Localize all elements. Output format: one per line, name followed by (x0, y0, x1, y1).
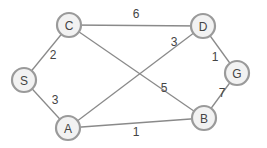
edge-weight-a-d: 3 (171, 35, 178, 49)
node-label: G (232, 67, 241, 81)
node-label: B (200, 112, 208, 126)
edge-weight-a-b: 1 (133, 125, 140, 139)
nodes-layer: SCADBG (12, 13, 249, 140)
node-c: C (57, 13, 81, 37)
graph-diagram: 62531317 SCADBG (0, 0, 267, 148)
edge-weight-c-b: 5 (161, 81, 168, 95)
edge-weight-d-g: 1 (212, 50, 219, 64)
node-label: A (64, 122, 72, 136)
edge-a-d (68, 26, 203, 128)
edge-weight-b-g: 7 (219, 86, 226, 100)
node-label: D (199, 20, 208, 34)
node-label: C (65, 19, 74, 33)
edge-c-d (69, 25, 203, 26)
node-d: D (191, 14, 215, 38)
node-label: S (20, 74, 28, 88)
edge-weight-s-c: 2 (50, 48, 57, 62)
edge-c-b (69, 25, 204, 118)
node-s: S (12, 68, 36, 92)
node-g: G (225, 61, 249, 85)
edge-weight-s-a: 3 (52, 93, 59, 107)
node-a: A (56, 116, 80, 140)
node-b: B (192, 106, 216, 130)
edge-weight-c-d: 6 (133, 7, 140, 21)
